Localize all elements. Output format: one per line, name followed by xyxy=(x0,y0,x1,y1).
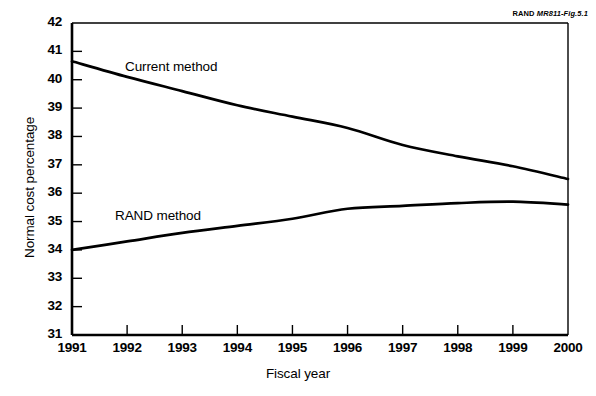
y-tick-label: 31 xyxy=(28,326,62,341)
y-tick-label: 34 xyxy=(28,241,62,256)
y-tick-label: 38 xyxy=(28,127,62,142)
y-tick-label: 33 xyxy=(28,269,62,284)
series-label-rand-method: RAND method xyxy=(115,208,201,223)
y-tick-label: 42 xyxy=(28,14,62,29)
source-note-prefix: RAND xyxy=(513,9,537,18)
source-note: RAND MR811-Fig.5.1 xyxy=(513,9,588,18)
y-tick-label: 35 xyxy=(28,213,62,228)
chart-figure: RAND MR811-Fig.5.1 Normal cost percentag… xyxy=(0,0,596,396)
plot-area xyxy=(0,0,596,396)
y-tick-marks xyxy=(72,51,82,306)
y-tick-label: 37 xyxy=(28,156,62,171)
series-line-current-method xyxy=(72,61,568,179)
y-tick-label: 36 xyxy=(28,184,62,199)
y-tick-label: 39 xyxy=(28,99,62,114)
x-axis-title: Fiscal year xyxy=(0,366,596,381)
y-tick-label: 41 xyxy=(28,42,62,57)
y-tick-label: 32 xyxy=(28,298,62,313)
x-tick-marks xyxy=(127,325,513,335)
source-note-id: MR811-Fig.5.1 xyxy=(537,9,588,18)
y-tick-label: 40 xyxy=(28,71,62,86)
x-tick-label: 2000 xyxy=(536,340,596,355)
series-label-current-method: Current method xyxy=(125,59,217,74)
